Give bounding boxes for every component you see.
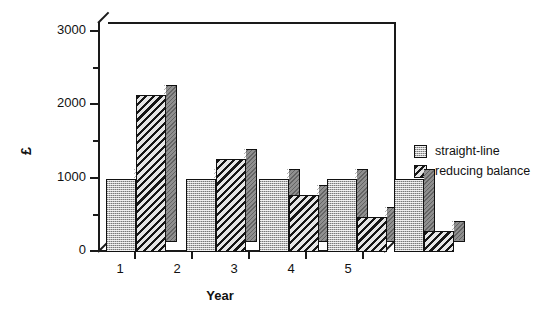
- bar-side-face: [454, 221, 465, 242]
- y-tick-label-3000: 3000: [40, 22, 86, 37]
- bar-reducing-balance-year-4: [357, 217, 387, 252]
- bar-front-face: [424, 231, 454, 252]
- bar-reducing-balance-year-3: [289, 195, 319, 252]
- y-tick-2500: [93, 67, 99, 69]
- y-axis-line: [98, 22, 100, 251]
- x-tick-1: [134, 252, 136, 259]
- bar-straight-line-year-4: [327, 179, 357, 252]
- bar-side-face: [246, 149, 257, 242]
- plot-frame-top: [108, 22, 396, 24]
- bar-front-face: [327, 179, 357, 252]
- bar-straight-line-year-3: [259, 179, 289, 252]
- x-tick-3: [248, 252, 250, 259]
- y-tick-3000: [90, 30, 99, 32]
- y-axis-title: £: [18, 147, 34, 155]
- bar-side-face: [166, 85, 177, 242]
- bar-front-face: [106, 179, 136, 252]
- stipple-swatch-icon: [414, 145, 427, 158]
- x-tick-4: [305, 252, 307, 259]
- bar-front-face: [186, 179, 216, 252]
- bar-reducing-balance-year-2: [216, 159, 246, 252]
- x-tick-label-4: 4: [276, 261, 306, 276]
- bar-front-face: [259, 179, 289, 252]
- bar-straight-line-year-1: [106, 179, 136, 252]
- x-tick-label-3: 3: [219, 261, 249, 276]
- bar-front-face: [136, 95, 166, 252]
- bar-front-face: [289, 195, 319, 252]
- y-tick-label-0: 0: [40, 242, 86, 257]
- y-tick-500: [93, 214, 99, 216]
- bar-front-face: [394, 179, 424, 252]
- x-tick-label-1: 1: [105, 261, 135, 276]
- y-tick-label-1000: 1000: [40, 169, 86, 184]
- bar-front-face: [357, 217, 387, 252]
- bar-reducing-balance-year-5: [424, 231, 454, 252]
- bar-front-face: [216, 159, 246, 252]
- legend-item-straight-line: straight-line: [414, 142, 530, 160]
- legend-label-straight-line: straight-line: [435, 144, 500, 158]
- x-tick-label-2: 2: [162, 261, 192, 276]
- y-tick-label-2000: 2000: [40, 95, 86, 110]
- x-axis-title: Year: [0, 288, 440, 303]
- y-tick-1000: [90, 177, 99, 179]
- x-tick-label-5: 5: [333, 261, 363, 276]
- bar-reducing-balance-year-1: [136, 95, 166, 252]
- bar-chart: £ 3000 2000 1000 0: [0, 0, 557, 325]
- bar-straight-line-year-5: [394, 179, 424, 252]
- legend-label-reducing-balance: reducing balance: [435, 164, 530, 178]
- y-tick-2000: [90, 103, 99, 105]
- y-tick-1500: [93, 140, 99, 142]
- bar-straight-line-year-2: [186, 179, 216, 252]
- x-tick-5: [362, 252, 364, 259]
- x-tick-2: [191, 252, 193, 259]
